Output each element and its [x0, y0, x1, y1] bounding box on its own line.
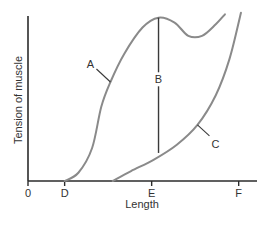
x-tick-label: 0 [25, 187, 31, 199]
label-c-leader [197, 125, 209, 136]
label-a: A [87, 58, 95, 70]
length-tension-chart: 0DEF BAC Length Tension of muscle [0, 0, 272, 226]
label-b: B [155, 73, 162, 85]
x-tick-label: D [61, 187, 69, 199]
x-axis-label: Length [125, 198, 159, 210]
label-c: C [211, 138, 219, 150]
x-tick-label: F [235, 187, 242, 199]
y-axis-label: Tension of muscle [12, 56, 24, 144]
label-a-leader [96, 69, 110, 82]
series-c-curve [113, 13, 241, 181]
series-a-curve [65, 14, 225, 181]
